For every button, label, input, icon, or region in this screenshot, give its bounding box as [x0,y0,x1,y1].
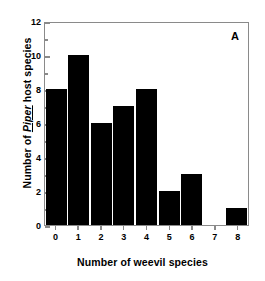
x-axis-tick-label: 8 [226,231,249,243]
y-axis-tick-labels: 024681012 [20,22,41,226]
x-axis-tick-mark [146,226,147,230]
bar-slot [113,23,136,225]
bar-slot [180,23,203,225]
x-axis-tick-mark [169,226,170,230]
x-axis-tick-label: 7 [203,231,226,243]
y-axis-tick-label: 12 [20,18,41,27]
x-axis-tick-labels: 012345678 [44,231,249,243]
y-axis-tick-label: 8 [20,86,41,95]
x-axis-tick-mark [100,226,101,230]
x-axis-tick-mark [123,226,124,230]
x-axis-tick-label: 0 [44,231,67,243]
x-axis-title: Number of weevil species [30,256,255,268]
bar[interactable] [226,208,247,225]
bar[interactable] [159,191,180,225]
x-axis-tick-label: 2 [90,231,113,243]
panel-label: A [231,30,239,42]
y-axis-tick-label: 4 [20,154,41,163]
bar-slot [68,23,91,225]
x-axis-tick-label: 1 [67,231,90,243]
bar[interactable] [91,123,112,225]
x-axis-tick-mark [237,226,238,230]
x-axis-tick-mark [214,226,215,230]
x-axis-tick-mark [77,226,78,230]
bar-slot [203,23,226,225]
plot-area: A [44,22,249,226]
y-axis-tick-label: 10 [20,52,41,61]
bar-slot [226,23,249,225]
x-axis-tick-mark [55,226,56,230]
bar[interactable] [136,89,157,225]
x-axis-tick-label: 4 [135,231,158,243]
x-axis-tick-label: 5 [158,231,181,243]
bar-chart-figure: Number of Piper host species 024681012 A… [0,0,265,281]
y-axis-tick-label: 0 [20,222,41,231]
bar-slot [135,23,158,225]
y-axis-tick-label: 2 [20,188,41,197]
bar-slot [45,23,68,225]
bar-slot [158,23,181,225]
bar[interactable] [181,174,202,225]
bar-series [45,23,248,225]
bar[interactable] [113,106,134,225]
bar[interactable] [68,55,89,225]
bar[interactable] [46,89,67,225]
bar-slot [90,23,113,225]
x-axis-tick-label: 6 [181,231,204,243]
x-axis-tick-mark [191,226,192,230]
y-axis-tick-label: 6 [20,120,41,129]
x-axis-tick-label: 3 [112,231,135,243]
